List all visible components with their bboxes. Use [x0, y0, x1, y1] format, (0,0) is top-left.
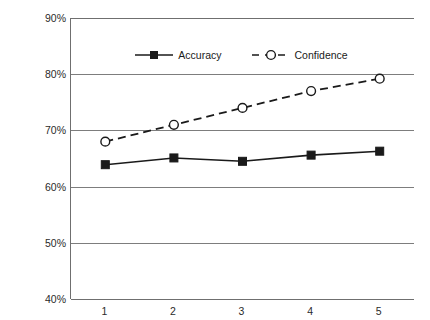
- x-axis-tick-label: 2: [158, 306, 188, 317]
- line-chart: Proportion Correct 90%80%70%60%50%40% 12…: [0, 0, 430, 320]
- x-axis-tick-label: 3: [227, 306, 257, 317]
- x-axis-tick-label: 5: [364, 306, 394, 317]
- x-axis-tick-label: 1: [89, 306, 119, 317]
- x-axis-tick-label: 4: [295, 306, 325, 317]
- x-axis-tick-labels: 12345: [0, 0, 430, 320]
